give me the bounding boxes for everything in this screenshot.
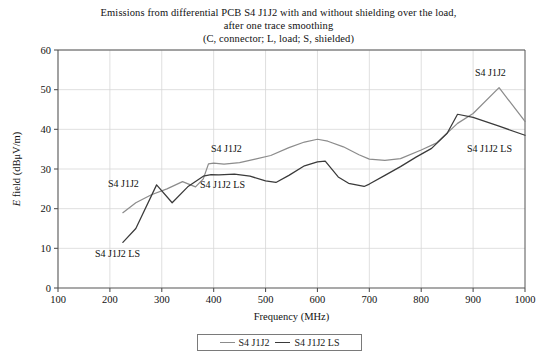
series-line-s4-j1j2-ls bbox=[123, 114, 525, 242]
annot-s4-j1j2-ls-mid: S4 J1J2 LS bbox=[200, 179, 245, 190]
legend-item-0[interactable]: S4 J1J2 bbox=[220, 338, 270, 348]
x-tick-label: 900 bbox=[465, 294, 481, 305]
annot-s4-j1j2-right: S4 J1J2 bbox=[475, 67, 506, 78]
x-tick-label: 400 bbox=[206, 294, 222, 305]
y-tick-label: 60 bbox=[41, 45, 52, 56]
x-axis-title: Frequency (MHz) bbox=[254, 311, 330, 323]
y-tick-label: 10 bbox=[41, 243, 52, 254]
y-axis-title: E field (dBμV/m) bbox=[11, 131, 23, 207]
x-tick-label: 500 bbox=[258, 294, 274, 305]
chart-figure: Emissions from differential PCB S4 J1J2 … bbox=[0, 0, 557, 364]
x-tick-label: 700 bbox=[361, 294, 377, 305]
legend-item-1[interactable]: S4 J1J2 LS bbox=[275, 338, 339, 348]
data-series bbox=[123, 88, 525, 243]
plot-annotations: S4 J1J2S4 J1J2 LSS4 J1J2S4 J1J2 LSS4 J1J… bbox=[95, 67, 512, 259]
legend-swatch-icon bbox=[275, 342, 290, 343]
y-tick-label: 20 bbox=[41, 203, 52, 214]
chart-plot-area: 0102030405060100200300400500600700800900… bbox=[0, 0, 557, 364]
legend-swatch-icon bbox=[220, 342, 235, 343]
x-tick-label: 300 bbox=[154, 294, 170, 305]
tick-labels: 0102030405060100200300400500600700800900… bbox=[41, 45, 536, 305]
x-tick-label: 100 bbox=[50, 294, 66, 305]
series-line-s4-j1j2 bbox=[123, 88, 525, 213]
annot-s4-j1j2-left: S4 J1J2 bbox=[108, 178, 139, 189]
x-tick-label: 600 bbox=[310, 294, 326, 305]
y-tick-label: 50 bbox=[41, 84, 52, 95]
chart-title: Emissions from differential PCB S4 J1J2 … bbox=[0, 6, 557, 45]
legend-label: S4 J1J2 bbox=[239, 338, 270, 348]
annot-s4-j1j2-ls-left: S4 J1J2 LS bbox=[95, 248, 140, 259]
chart-legend: S4 J1J2S4 J1J2 LS bbox=[197, 334, 362, 351]
x-tick-label: 200 bbox=[102, 294, 118, 305]
chart-title-line-2: after one trace smoothing bbox=[0, 19, 557, 32]
y-tick-label: 40 bbox=[41, 124, 52, 135]
annot-s4-j1j2-mid: S4 J1J2 bbox=[211, 143, 242, 154]
x-tick-label: 1000 bbox=[515, 294, 536, 305]
annot-s4-j1j2-ls-right: S4 J1J2 LS bbox=[467, 143, 512, 154]
chart-title-line-3: (C, connector; L, load; S, shielded) bbox=[0, 32, 557, 45]
y-tick-label: 0 bbox=[46, 283, 51, 294]
y-tick-label: 30 bbox=[41, 164, 52, 175]
legend-label: S4 J1J2 LS bbox=[294, 338, 339, 348]
x-tick-label: 800 bbox=[413, 294, 429, 305]
chart-title-line-1: Emissions from differential PCB S4 J1J2 … bbox=[0, 6, 557, 19]
